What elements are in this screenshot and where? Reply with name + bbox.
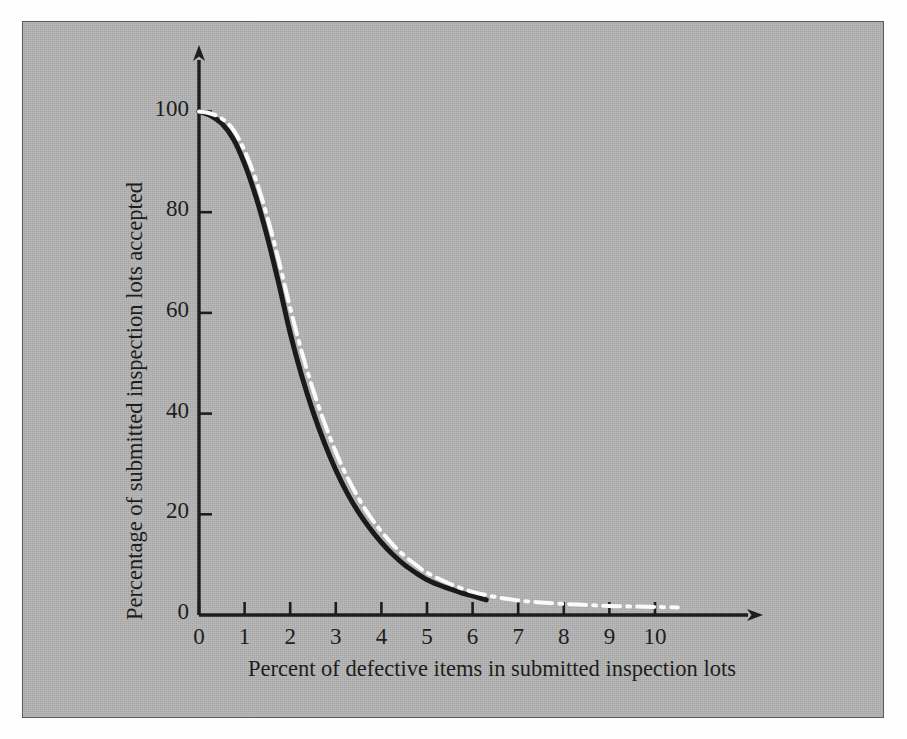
- x-tick-label: 7: [493, 624, 543, 650]
- x-tick-label: 3: [311, 624, 361, 650]
- x-tick-label: 5: [402, 624, 452, 650]
- x-tick-label: 0: [174, 624, 224, 650]
- series-solid-oc-curve: [199, 112, 486, 600]
- x-tick-label: 2: [265, 624, 315, 650]
- x-axis-title: Percent of defective items in submitted …: [212, 656, 772, 682]
- data-series-group: [199, 112, 678, 608]
- y-axis-title: Percentage of submitted inspection lots …: [122, 182, 148, 620]
- y-tick-marks: [199, 112, 212, 515]
- y-tick-label: 100: [133, 96, 189, 122]
- x-tick-label: 6: [448, 624, 498, 650]
- x-tick-label: 1: [220, 624, 270, 650]
- axes-group: [199, 60, 748, 615]
- x-tick-label: 4: [356, 624, 406, 650]
- x-tick-label: 10: [630, 624, 680, 650]
- series-dash-dot-oc-curve: [199, 112, 678, 608]
- figure-root: 012345678910020406080100 Percent of defe…: [0, 0, 907, 739]
- x-tick-label: 9: [584, 624, 634, 650]
- x-tick-label: 8: [539, 624, 589, 650]
